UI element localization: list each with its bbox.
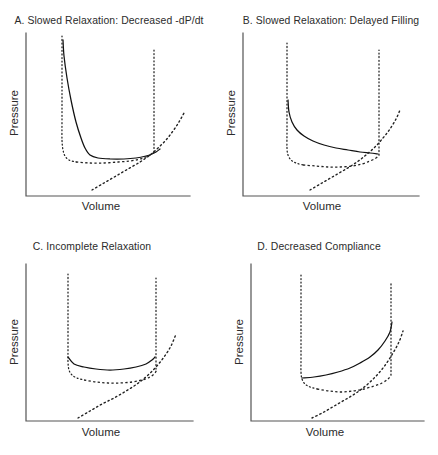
panel-d-title: D. Decreased Compliance xyxy=(257,241,381,252)
panel-b: B. Slowed Relaxation: Delayed Filling Vo… xyxy=(219,0,438,227)
curve-incomplete-relaxation-limb xyxy=(68,357,155,370)
panel-c-axes xyxy=(26,264,193,421)
panel-a-svg: A. Slowed Relaxation: Decreased -dP/dt V… xyxy=(0,0,219,227)
diastolic-dysfunction-figure: A. Slowed Relaxation: Decreased -dP/dt V… xyxy=(0,0,438,455)
panel-a-ylabel: Pressure xyxy=(8,90,20,136)
panel-a-axes xyxy=(26,33,190,196)
panel-b-curves xyxy=(287,43,400,190)
curve-edpvr-curve xyxy=(78,334,176,418)
panel-b-title: B. Slowed Relaxation: Delayed Filling xyxy=(243,15,420,26)
curve-normal-loop-left-limb xyxy=(68,274,84,380)
curve-edpvr-curve xyxy=(92,113,184,190)
panel-a-xlabel: Volume xyxy=(82,200,120,212)
panel-c-ylabel: Pressure xyxy=(8,319,20,365)
panel-d-svg: D. Decreased Compliance Volume Pressure xyxy=(219,228,438,455)
curve-abnormal-relaxation-limb xyxy=(63,40,160,159)
curve-normal-loop-bottom xyxy=(317,375,391,392)
curve-delayed-filling-limb xyxy=(288,100,378,154)
panel-d-ylabel: Pressure xyxy=(233,319,245,365)
curve-normal-loop-bottom xyxy=(84,369,157,383)
panel-b-axes xyxy=(243,33,419,196)
curve-edpvr-curve xyxy=(310,110,400,190)
panel-c-svg: C. Incomplete Relaxation Volume Pressure xyxy=(0,228,219,455)
curve-normal-loop-bottom xyxy=(303,155,379,167)
panel-b-xlabel: Volume xyxy=(303,200,341,212)
panel-c-title: C. Incomplete Relaxation xyxy=(33,241,152,252)
panel-a: A. Slowed Relaxation: Decreased -dP/dt V… xyxy=(0,0,219,227)
panel-c: C. Incomplete Relaxation Volume Pressure xyxy=(0,228,219,455)
panel-a-curves xyxy=(62,36,184,190)
curve-normal-loop-left-limb xyxy=(287,43,303,165)
panel-d: D. Decreased Compliance Volume Pressure xyxy=(219,228,438,455)
panel-d-curves xyxy=(301,275,403,418)
panel-b-ylabel: Pressure xyxy=(225,90,237,136)
panel-c-curves xyxy=(68,274,176,418)
panel-a-title: A. Slowed Relaxation: Decreased -dP/dt xyxy=(14,15,203,26)
curve-decreased-compliance-limb xyxy=(302,322,392,378)
panel-b-svg: B. Slowed Relaxation: Delayed Filling Vo… xyxy=(219,0,438,227)
curve-normal-loop-left-limb xyxy=(301,275,317,389)
panel-c-xlabel: Volume xyxy=(82,426,120,438)
panel-d-xlabel: Volume xyxy=(306,426,344,438)
curve-normal-loop-bottom xyxy=(76,152,154,163)
